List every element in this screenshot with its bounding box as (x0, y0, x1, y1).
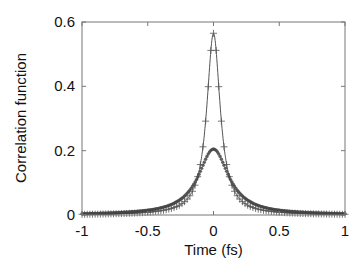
dot-marker (224, 167, 227, 170)
y-tick-label: 0 (67, 206, 75, 223)
dot-marker (200, 167, 203, 170)
y-tick-label: 0.6 (54, 13, 75, 30)
dot-marker (225, 170, 228, 173)
plus-marker (202, 118, 209, 125)
x-tick-label: 0.5 (269, 222, 290, 239)
dot-marker (197, 173, 200, 176)
x-tick-label: 1 (341, 222, 349, 239)
plus-marker (210, 30, 217, 37)
dot-marker (201, 164, 204, 167)
dot-marker (222, 164, 225, 167)
dot-marker (203, 161, 206, 164)
plus-marker (215, 83, 222, 90)
y-tick-labels: 00.20.40.6 (54, 13, 75, 223)
x-tick-label: -0.5 (135, 222, 161, 239)
x-tick-label: -1 (75, 222, 88, 239)
plus-marker (213, 47, 220, 54)
dot-marker (221, 161, 224, 164)
dot-marker (220, 158, 223, 161)
plus-marker (218, 118, 225, 125)
plus-marker (221, 143, 228, 150)
x-tick-label: 0 (209, 222, 217, 239)
correlation-chart: -1-0.500.51 00.20.40.6 Time (fs) Correla… (0, 0, 362, 277)
sharp-peak-line (82, 33, 345, 214)
x-axis-label: Time (fs) (184, 241, 243, 258)
plus-marker (205, 83, 212, 90)
y-axis-label: Correlation function (12, 53, 29, 183)
axis-ticks (82, 22, 345, 215)
y-tick-label: 0.2 (54, 142, 75, 159)
x-tick-labels: -1-0.500.51 (75, 222, 349, 239)
y-tick-label: 0.4 (54, 77, 75, 94)
dot-marker (199, 170, 202, 173)
plot-frame (82, 22, 345, 215)
plus-marker (199, 143, 206, 150)
plot-area (79, 30, 349, 218)
